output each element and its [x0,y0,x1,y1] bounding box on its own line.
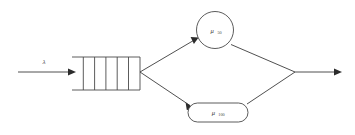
diagram-canvas: λ μ 50 μ [0,0,355,135]
queue-buffer [72,57,140,90]
departure-arrow [295,69,342,76]
branch-upper-arrow [140,37,199,72]
queueing-network-diagram: λ μ 50 μ [0,0,355,135]
merge-upper-line [231,45,295,73]
server-fast[interactable]: μ 50 [197,12,234,49]
server-slow[interactable]: μ 100 [188,103,248,122]
merge-lower-line [247,72,295,104]
branch-lower-arrow [140,72,195,110]
arrival-arrow [18,69,76,76]
arrival-rate-lambda: λ [41,58,45,66]
server-slow-subscript: 100 [218,112,224,117]
server-fast-subscript: 50 [217,30,221,35]
